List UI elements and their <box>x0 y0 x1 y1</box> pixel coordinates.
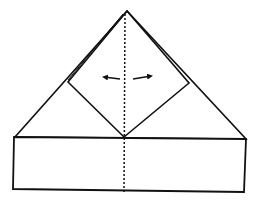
triangle-left-double-edge <box>68 14 123 80</box>
fold-diagram <box>0 0 263 202</box>
center-diamond <box>68 11 189 137</box>
bottom-band <box>13 137 246 192</box>
arrow-right-icon <box>133 76 151 79</box>
arrow-left-icon <box>104 77 120 79</box>
diagram-svg <box>0 0 263 202</box>
outer-triangle <box>15 11 246 139</box>
